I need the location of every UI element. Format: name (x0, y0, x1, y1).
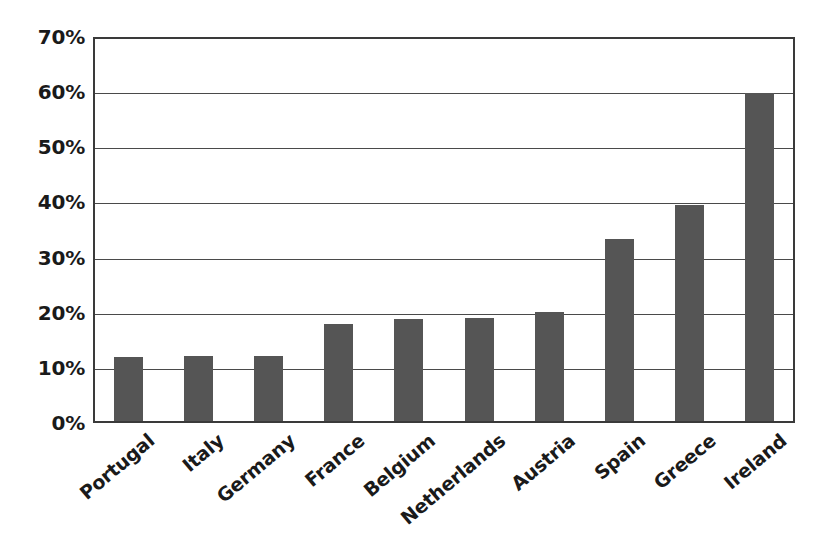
bar-chart: 0%10%20%30%40%50%60%70% PortugalItalyGer… (0, 0, 836, 539)
bar (324, 324, 353, 421)
bar (114, 357, 143, 421)
y-axis-tick-label: 70% (7, 27, 85, 47)
y-axis-tick-label: 50% (7, 137, 85, 157)
x-axis-tick-label: Spain (590, 429, 649, 484)
x-axis-tick-label: Germany (212, 429, 299, 507)
x-axis-tick-label: Austria (507, 429, 579, 495)
x-axis-category-labels: PortugalItalyGermanyFranceBelgiumNetherl… (93, 423, 795, 539)
y-axis-tick-label: 40% (7, 192, 85, 212)
y-axis-tick-label: 60% (7, 82, 85, 102)
y-axis-tick-labels: 0%10%20%30%40%50%60%70% (0, 0, 85, 539)
bar (745, 93, 774, 421)
bar (184, 356, 213, 421)
bar (535, 312, 564, 421)
y-axis-tick-label: 10% (7, 358, 85, 378)
bar (394, 319, 423, 421)
y-axis-tick-label: 0% (7, 413, 85, 433)
bar (465, 318, 494, 421)
bar (605, 239, 634, 421)
bars-layer (93, 37, 795, 423)
x-axis-tick-label: Greece (649, 429, 720, 493)
bar (675, 205, 704, 421)
x-axis-tick-label: Ireland (719, 429, 790, 494)
bar (254, 356, 283, 421)
y-axis-tick-label: 30% (7, 248, 85, 268)
x-axis-tick-label: France (301, 429, 369, 491)
x-axis-tick-label: Italy (178, 429, 228, 476)
y-axis-tick-label: 20% (7, 303, 85, 323)
x-axis-tick-label: Portugal (75, 429, 158, 504)
